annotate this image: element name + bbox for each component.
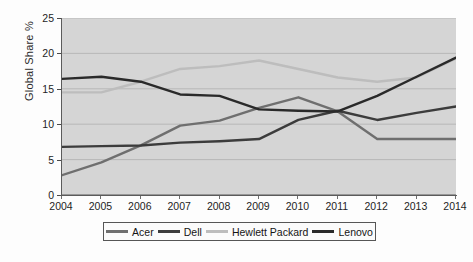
legend-swatch-icon: [106, 230, 128, 233]
legend-label: Lenovo: [338, 226, 372, 238]
legend-item-dell[interactable]: Dell: [157, 226, 203, 238]
y-tick-label: 25: [28, 13, 54, 23]
y-tick-label: 5: [28, 155, 54, 165]
legend-item-hewlett-packard[interactable]: Hewlett Packard: [205, 226, 309, 238]
line-chart: Global Share % 2520151050 20042005200620…: [0, 0, 473, 262]
x-tick-label: 2006: [123, 200, 157, 212]
x-tick-label: 2012: [359, 200, 393, 212]
x-axis-line: [60, 195, 457, 197]
gridlines: [62, 18, 456, 195]
chart-legend: AcerDellHewlett PackardLenovo: [103, 222, 376, 241]
series-line-lenovo: [62, 58, 456, 112]
x-tick-label: 2011: [320, 200, 354, 212]
legend-swatch-icon: [206, 230, 228, 233]
legend-label: Acer: [132, 226, 154, 238]
series-line-dell: [62, 107, 456, 147]
legend-item-acer[interactable]: Acer: [105, 226, 155, 238]
x-tick-label: 2013: [399, 200, 433, 212]
x-tick-label: 2008: [202, 200, 236, 212]
legend-item-lenovo[interactable]: Lenovo: [311, 226, 373, 238]
x-tick-label: 2009: [241, 200, 275, 212]
y-tick-label: 20: [28, 48, 54, 58]
x-tick-label: 2004: [44, 200, 78, 212]
y-tick-label: 10: [28, 119, 54, 129]
legend-swatch-icon: [312, 230, 334, 233]
x-tick-label: 2010: [280, 200, 314, 212]
x-tick-label: 2005: [83, 200, 117, 212]
series-lines: [62, 58, 456, 176]
plot-area: [61, 18, 456, 195]
plot-svg: [62, 18, 456, 195]
legend-label: Dell: [184, 226, 202, 238]
legend-swatch-icon: [158, 230, 180, 233]
legend-label: Hewlett Packard: [232, 226, 308, 238]
y-tick-label: 15: [28, 84, 54, 94]
x-tick-label: 2014: [438, 200, 472, 212]
y-tick-label: 0: [28, 190, 54, 200]
x-tick-label: 2007: [162, 200, 196, 212]
